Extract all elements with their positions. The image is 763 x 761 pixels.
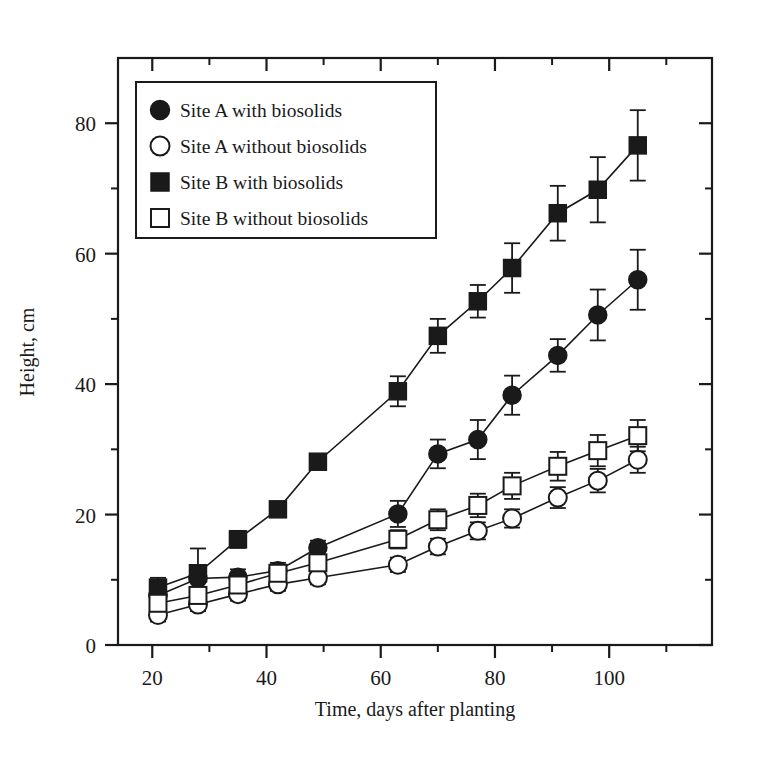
chart-canvas: 20406080100 020406080 Time, days after p… xyxy=(0,0,763,761)
data-point-filled-circle xyxy=(429,445,447,463)
data-point-filled-square xyxy=(269,501,286,518)
legend-item-label: Site B without biosolids xyxy=(180,208,368,229)
data-point-filled-square xyxy=(549,205,566,222)
y-tick-label: 20 xyxy=(75,504,96,528)
data-point-open-circle xyxy=(549,489,567,507)
x-tick-label: 40 xyxy=(256,666,277,690)
data-point-filled-square xyxy=(469,293,486,310)
legend-item-label: Site A without biosolids xyxy=(180,136,367,157)
y-axis-title: Height, cm xyxy=(16,307,39,396)
error-bars xyxy=(150,250,646,606)
legend-item-3[interactable]: Site B without biosolids xyxy=(151,208,368,229)
data-point-open-square xyxy=(589,442,606,459)
data-point-open-square xyxy=(229,576,246,593)
data-point-open-circle xyxy=(389,556,407,574)
chart-legend: Site A with biosolidsSite A without bios… xyxy=(136,82,436,238)
y-tick-label: 80 xyxy=(75,112,96,136)
data-point-open-square xyxy=(629,427,646,444)
data-point-filled-circle xyxy=(629,271,647,289)
data-point-open-circle xyxy=(589,472,607,490)
data-point-filled-square xyxy=(229,531,246,548)
x-axis-title: Time, days after planting xyxy=(315,698,515,721)
y-tick-label: 40 xyxy=(75,373,96,397)
y-tick-label: 0 xyxy=(86,634,97,658)
data-point-open-square xyxy=(189,587,206,604)
data-point-filled-square xyxy=(309,453,326,470)
data-point-filled-circle xyxy=(503,386,521,404)
y-tick-label: 60 xyxy=(75,243,96,267)
x-tick-label: 80 xyxy=(484,666,505,690)
data-point-filled-circle xyxy=(151,101,170,120)
data-point-open-square xyxy=(269,565,286,582)
data-point-filled-square xyxy=(189,565,206,582)
data-point-open-circle xyxy=(429,538,447,556)
data-point-filled-square xyxy=(589,181,606,198)
data-point-open-square xyxy=(309,554,326,571)
data-point-filled-square xyxy=(151,173,169,191)
legend-item-label: Site B with biosolids xyxy=(180,172,343,193)
data-point-open-square xyxy=(149,595,166,612)
chart-figure: 20406080100 020406080 Time, days after p… xyxy=(0,0,763,761)
data-point-open-circle xyxy=(151,137,170,156)
data-point-filled-square xyxy=(429,327,446,344)
data-point-filled-square xyxy=(389,383,406,400)
legend-item-label: Site A with biosolids xyxy=(180,100,342,121)
data-point-filled-circle xyxy=(549,346,567,364)
data-point-open-square xyxy=(389,531,406,548)
data-point-open-square xyxy=(469,497,486,514)
legend-item-2[interactable]: Site B with biosolids xyxy=(151,172,343,193)
data-point-filled-square xyxy=(629,137,646,154)
data-point-filled-circle xyxy=(589,306,607,324)
x-tick-label: 60 xyxy=(370,666,391,690)
data-point-filled-square xyxy=(504,260,521,277)
data-point-open-square xyxy=(549,458,566,475)
data-point-filled-circle xyxy=(469,431,487,449)
data-point-open-circle xyxy=(629,451,647,469)
data-point-filled-circle xyxy=(389,505,407,523)
data-point-open-square xyxy=(151,209,169,227)
legend-item-0[interactable]: Site A with biosolids xyxy=(151,100,343,121)
data-point-open-square xyxy=(504,477,521,494)
legend-item-1[interactable]: Site A without biosolids xyxy=(151,136,367,157)
data-point-filled-square xyxy=(149,579,166,596)
x-tick-label: 20 xyxy=(142,666,163,690)
x-tick-label: 100 xyxy=(593,666,625,690)
data-point-open-circle xyxy=(469,522,487,540)
data-point-open-circle xyxy=(503,509,521,527)
data-point-open-square xyxy=(429,511,446,528)
